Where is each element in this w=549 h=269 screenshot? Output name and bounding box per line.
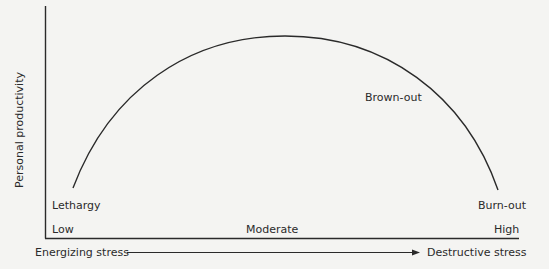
tick-low: Low — [52, 223, 74, 236]
label-burn-out: Burn-out — [478, 199, 526, 212]
arrow-start-label: Energizing stress — [35, 246, 129, 259]
tick-high: High — [494, 223, 519, 236]
tick-moderate: Moderate — [246, 223, 298, 236]
arrowhead-icon — [412, 250, 420, 256]
y-axis-label: Personal productivity — [13, 72, 26, 188]
productivity-curve — [73, 36, 498, 190]
arrow-end-label: Destructive stress — [427, 246, 527, 259]
stress-productivity-diagram: Personal productivity Lethargy Brown-out… — [0, 0, 549, 269]
label-lethargy: Lethargy — [52, 199, 101, 212]
label-brown-out: Brown-out — [365, 91, 422, 104]
